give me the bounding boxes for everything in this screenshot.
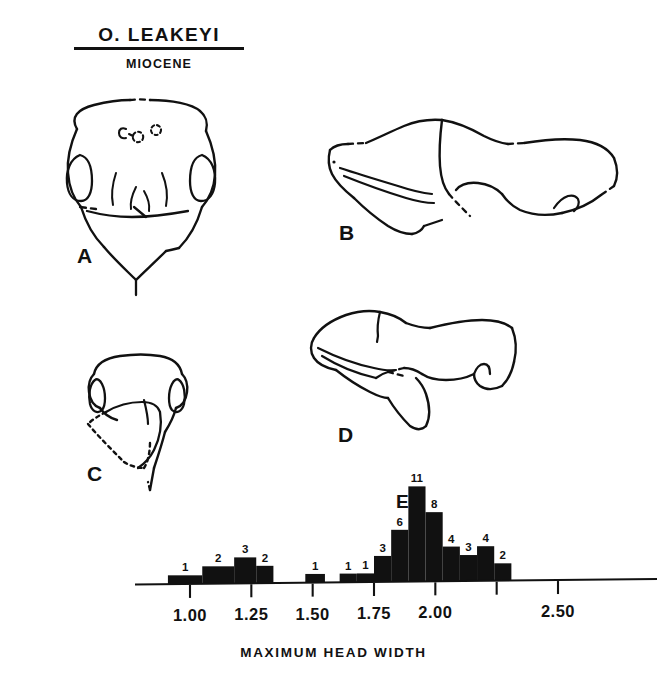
histogram-tick-labels-layer: 1.001.251.501.752.002.50 [173, 602, 575, 624]
histogram-bar-count-label: 1 [362, 559, 369, 571]
title-underline-rule [74, 47, 244, 50]
histogram-bar-count-label: 11 [411, 472, 424, 484]
histogram-bar [234, 557, 256, 583]
compound-eye-right [190, 155, 215, 201]
histogram-bar-count-label: 2 [500, 549, 506, 561]
histogram-bar [477, 546, 494, 581]
epoch-name: MIOCENE [44, 57, 274, 71]
histogram-bar-count-label: 6 [397, 516, 403, 528]
figure-b-mesosoma-lateral-drawing [318, 100, 628, 250]
histogram-bar [426, 512, 443, 581]
head-inner-line-c [106, 400, 160, 424]
histogram-bar [357, 573, 374, 582]
histogram-bar [391, 530, 408, 582]
ocelli-group [119, 125, 161, 142]
histogram-bar-count-label: 1 [312, 560, 319, 572]
histogram-bar-count-label: 3 [379, 542, 385, 554]
histogram-bar-count-label: 8 [431, 498, 438, 510]
head-dashed-suture [130, 99, 150, 100]
histogram-bars-layer [168, 486, 511, 584]
histogram-bar [340, 574, 357, 583]
mesosoma-outline-d [311, 311, 516, 429]
histogram-bar-count-label: 1 [182, 561, 189, 573]
histogram-bar-count-label: 2 [262, 552, 268, 564]
histogram-bar [168, 575, 202, 584]
spiracle-dot-b [332, 160, 335, 163]
histogram-bar [460, 555, 477, 581]
histogram-bar [305, 574, 325, 583]
mesosoma-outline-b [329, 120, 617, 234]
histogram-bar [374, 556, 391, 582]
figure-b-letter-label: B [339, 222, 354, 243]
histogram-tick-label: 1.50 [296, 605, 330, 623]
figure-e-histogram: 1232111361184342 1.001.251.501.752.002.5… [0, 440, 667, 640]
histogram-tick-label: 1.00 [173, 606, 207, 624]
histogram-bar-count-label: 4 [482, 532, 489, 544]
histogram-tick-label: 2.50 [541, 602, 575, 620]
figure-e-letter-label: E [396, 492, 409, 511]
histogram-bar [202, 566, 234, 583]
figure-a-letter-label: A [77, 245, 92, 266]
histogram-bar [256, 566, 273, 583]
species-name: O. LEAKEYI [44, 24, 274, 46]
histogram-bar [443, 547, 460, 582]
histogram-bar-count-label: 4 [448, 533, 455, 545]
histogram-tick-label: 1.75 [357, 604, 391, 622]
figure-plate: O. LEAKEYI MIOCENE [0, 0, 667, 689]
histogram-tick-label: 1.25 [234, 605, 268, 623]
histogram-bar [494, 563, 511, 580]
frontal-carinae [112, 173, 167, 211]
histogram-bar-count-label: 2 [215, 552, 221, 564]
histogram-bar [408, 486, 425, 581]
clypeal-margin [87, 207, 188, 217]
plate-heading: O. LEAKEYI MIOCENE [44, 24, 274, 71]
histogram-bar-count-label: 3 [242, 543, 248, 555]
compound-eye-left [67, 155, 92, 201]
histogram-bar-count-label: 3 [465, 541, 471, 553]
histogram-tick-label: 2.00 [418, 603, 452, 621]
figure-a-head-frontal-drawing [40, 95, 230, 295]
mesosoma-dashed-b [348, 143, 614, 216]
x-axis-caption: MAXIMUM HEAD WIDTH [0, 645, 667, 660]
propodeal-notch-d [474, 364, 490, 374]
histogram-bar-count-label: 1 [345, 560, 352, 572]
